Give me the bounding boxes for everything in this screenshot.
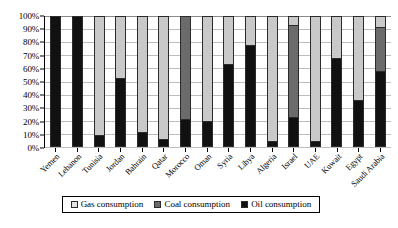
plot-area: [44, 16, 391, 148]
bar-segment-gas: [224, 17, 233, 65]
bar-slot: [196, 16, 218, 147]
x-axis-label-syria: Syria: [216, 152, 235, 171]
bar-segment-oil: [181, 120, 190, 146]
x-label-slot: Oman: [196, 152, 218, 190]
legend-swatch-icon: [241, 201, 248, 208]
y-axis-tick-label: 50%: [23, 78, 39, 87]
y-axis-tick-label: 70%: [23, 51, 39, 60]
bar-segment-oil: [116, 79, 125, 146]
bar-segment-oil: [51, 17, 60, 146]
bar-segment-gas: [311, 17, 320, 142]
bar-segment-gas: [246, 17, 255, 46]
x-label-slot: Syria: [218, 152, 240, 190]
bar-segment-gas: [332, 17, 341, 59]
bar-series-container: [45, 16, 391, 147]
bar-bahrain[interactable]: [137, 16, 148, 147]
bar-segment-gas: [376, 17, 385, 28]
bar-segment-oil: [311, 142, 320, 146]
bar-segment-oil: [246, 46, 255, 146]
bar-tunisia[interactable]: [94, 16, 105, 147]
bar-segment-oil: [73, 17, 82, 146]
bar-lebanon[interactable]: [72, 16, 83, 147]
bar-slot: [88, 16, 110, 147]
legend-label: Oil consumption: [251, 200, 311, 209]
bar-slot: [175, 16, 197, 147]
bar-segment-gas: [138, 17, 147, 133]
bar-slot: [132, 16, 154, 147]
bar-segment-oil: [95, 136, 104, 146]
bar-slot: [67, 16, 89, 147]
bar-segment-oil: [376, 72, 385, 146]
x-label-slot: Saudi Arabia: [369, 152, 391, 190]
bar-jordan[interactable]: [115, 16, 126, 147]
bar-oman[interactable]: [202, 16, 213, 147]
bar-slot: [110, 16, 132, 147]
bar-slot: [348, 16, 370, 147]
legend-label: Coal consumption: [164, 200, 230, 209]
bar-morocco[interactable]: [180, 16, 191, 147]
bar-segment-gas: [203, 17, 212, 122]
chart-legend: Gas consumptionCoal consumptionOil consu…: [62, 196, 320, 213]
bar-slot: [218, 16, 240, 147]
x-label-slot: Israel: [283, 152, 305, 190]
bar-libya[interactable]: [245, 16, 256, 147]
y-axis-tick-label: 10%: [23, 130, 39, 139]
bar-slot: [240, 16, 262, 147]
bar-slot: [326, 16, 348, 147]
y-axis-tick-label: 90%: [23, 25, 39, 34]
bar-segment-oil: [332, 59, 341, 146]
legend-item-oil[interactable]: Oil consumption: [241, 200, 311, 209]
y-axis-tick-label: 40%: [23, 91, 39, 100]
bar-segment-gas: [95, 17, 104, 136]
x-axis-label-israel: Israel: [280, 152, 299, 171]
bar-segment-oil: [138, 133, 147, 146]
x-label-slot: Morocco: [174, 152, 196, 190]
y-axis-tick-label: 60%: [23, 64, 39, 73]
legend-item-coal[interactable]: Coal consumption: [154, 200, 230, 209]
bar-uae[interactable]: [310, 16, 321, 147]
bar-segment-gas: [354, 17, 363, 101]
bar-slot: [369, 16, 391, 147]
y-axis-tick-label: 20%: [23, 117, 39, 126]
bar-segment-oil: [268, 142, 277, 146]
bar-slot: [305, 16, 327, 147]
y-axis-tick-label: 80%: [23, 38, 39, 47]
bar-slot: [261, 16, 283, 147]
bar-egypt[interactable]: [353, 16, 364, 147]
bar-slot: [45, 16, 67, 147]
y-axis-tick-label: 100%: [19, 12, 39, 21]
bar-israel[interactable]: [288, 16, 299, 147]
x-axis-label-oman: Oman: [192, 152, 213, 173]
bar-segment-gas: [159, 17, 168, 140]
y-axis-tick-label: 0%: [27, 144, 39, 153]
bar-segment-coal: [181, 17, 190, 120]
bar-segment-oil: [289, 118, 298, 146]
bar-segment-coal: [289, 26, 298, 118]
bar-segment-coal: [376, 28, 385, 72]
legend-swatch-icon: [154, 201, 161, 208]
bar-kuwait[interactable]: [331, 16, 342, 147]
legend-item-gas[interactable]: Gas consumption: [71, 200, 144, 209]
bar-saudi-arabia[interactable]: [375, 16, 386, 147]
x-label-slot: Tunisia: [87, 152, 109, 190]
bar-qatar[interactable]: [158, 16, 169, 147]
x-label-slot: Kuwait: [326, 152, 348, 190]
bar-segment-oil: [159, 140, 168, 146]
y-axis-tick-label: 30%: [23, 104, 39, 113]
bar-syria[interactable]: [223, 16, 234, 147]
bar-segment-oil: [354, 101, 363, 146]
bar-segment-gas: [268, 17, 277, 142]
legend-label: Gas consumption: [81, 200, 144, 209]
bar-yemen[interactable]: [50, 16, 61, 147]
x-axis-labels: YemenLebanonTunisiaJordanBahrainQatarMor…: [44, 152, 391, 190]
x-label-slot: Algeria: [261, 152, 283, 190]
bar-algeria[interactable]: [267, 16, 278, 147]
stacked-bar-chart: 100%90%80%70%60%50%40%30%20%10%0% YemenL…: [0, 0, 398, 228]
legend-swatch-icon: [71, 201, 78, 208]
bar-segment-gas: [289, 17, 298, 26]
bar-slot: [283, 16, 305, 147]
x-label-slot: Bahrain: [131, 152, 153, 190]
bar-segment-oil: [203, 122, 212, 146]
bar-segment-gas: [116, 17, 125, 79]
bar-segment-oil: [224, 65, 233, 146]
